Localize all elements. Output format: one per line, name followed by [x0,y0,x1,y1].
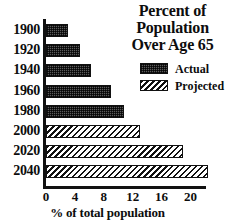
bar-series-container [46,22,206,184]
x-axis-title: % of total population [0,205,215,221]
x-axis-tick-label: 8 [101,190,108,204]
x-axis-line [43,186,206,189]
bar-row [46,22,206,42]
y-axis-tick-label: 1900 [0,22,40,42]
bar-1900 [46,24,68,37]
bar-row [46,42,206,62]
x-axis-tick-label: 20 [184,190,197,204]
y-axis-tick-label: 1920 [0,42,40,62]
bar-chart: Percent of Population Over Age 65 Actual… [0,0,233,222]
y-axis-tick-label: 1980 [0,103,40,123]
bar-row [46,83,206,103]
bar-1920 [46,44,80,57]
y-axis-tick-label: 1960 [0,83,40,103]
x-axis-tick-label: 16 [155,190,168,204]
plot-area: 19001920194019601980200020202040 0481216… [0,0,233,222]
bar-row [46,143,206,163]
bar-1960 [46,85,111,98]
bar-2020 [46,145,183,158]
x-axis-tick-label: 4 [72,190,79,204]
bar-2040 [46,165,208,178]
bar-1940 [46,64,91,77]
bar-1980 [46,105,124,118]
y-axis-tick-labels: 19001920194019601980200020202040 [0,22,40,184]
bar-row [46,123,206,143]
bar-row [46,103,206,123]
x-axis-tick-labels: 048121620 [0,190,233,206]
bar-row [46,163,206,183]
y-axis-tick-label: 2040 [0,163,40,183]
y-axis-tick-label: 2000 [0,123,40,143]
x-axis-tick-label: 0 [43,190,50,204]
x-axis-tick-label: 12 [126,190,139,204]
y-axis-tick-label: 1940 [0,62,40,82]
y-axis-tick-label: 2020 [0,143,40,163]
bar-row [46,62,206,82]
bar-2000 [46,125,140,138]
